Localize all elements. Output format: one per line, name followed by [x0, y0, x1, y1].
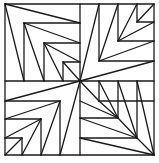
diagram-line [118, 81, 137, 138]
diagram-line [99, 41, 154, 61]
diagram-line [80, 81, 99, 101]
diagram-line [63, 62, 80, 81]
quilt-block-diagram [0, 0, 159, 163]
diagram-line [80, 61, 154, 81]
diagram-line [80, 4, 99, 81]
diagram-line [60, 81, 80, 155]
diagram-line [5, 101, 60, 119]
diagram-line [99, 81, 118, 118]
diagram-line [80, 101, 118, 118]
diagram-line [5, 4, 24, 81]
diagram-line [80, 138, 154, 155]
diagram-line [5, 4, 80, 23]
diagram-line [99, 101, 118, 118]
diagram-line [24, 23, 80, 43]
diagram-line [137, 4, 154, 22]
diagram-line [5, 138, 22, 155]
diagram-line [5, 81, 80, 101]
diagram-line [99, 4, 118, 61]
diagram-line [24, 23, 44, 81]
diagram-line [41, 101, 60, 155]
diagram-line [80, 118, 137, 138]
diagram-line [137, 81, 154, 155]
